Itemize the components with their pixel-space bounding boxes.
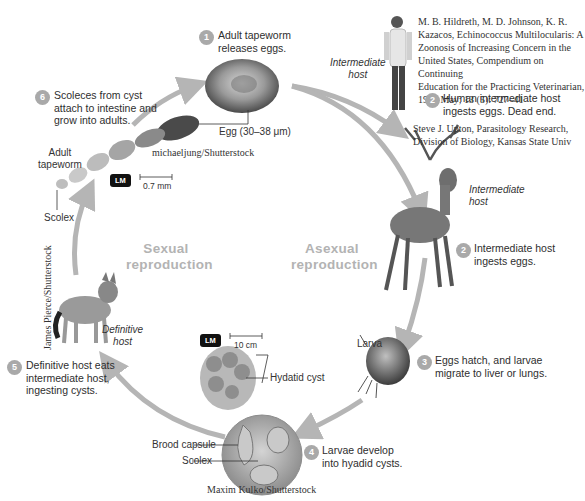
step-3-text: Eggs hatch, and larvae migrate to liver …	[435, 354, 547, 379]
wolf-host-label: Definitive host	[102, 324, 143, 348]
scolex-label-bottom: Scolex	[182, 455, 212, 467]
scolex-label-top: Scolex	[44, 212, 74, 224]
step-badge-5: 5	[7, 360, 22, 375]
step-badge-4: 4	[304, 445, 319, 460]
step-badge-2-deer: 2	[456, 243, 471, 258]
asexual-reproduction-label: Asexual reproduction	[291, 241, 373, 273]
arrow-5-to-6	[75, 192, 89, 275]
lm-badge-top: LM	[110, 174, 131, 187]
egg-illustration	[198, 59, 279, 124]
step-badge-6: 6	[35, 90, 50, 105]
step-2-deer-text: Intermediate host ingests eggs.	[474, 242, 555, 267]
deer-host-label: Intermediate host	[469, 184, 525, 208]
brood-capsule-label: Brood capsule	[152, 439, 216, 451]
scale-value-top: 0.7 mm	[143, 181, 171, 191]
step-4-text: Larvae develop into hyadid cysts.	[322, 444, 403, 469]
arrow-3-to-4	[304, 400, 362, 432]
step-badge-1: 1	[199, 30, 214, 45]
step-6-text: Scoleces from cyst attach to intestine a…	[54, 89, 157, 127]
scale-bar-bottom	[230, 333, 262, 339]
scale-bar-top	[140, 174, 172, 180]
step-2-human-text: Human intermediate host ingests eggs. De…	[443, 92, 560, 117]
step-1-text: Adult tapeworm releases eggs.	[218, 29, 291, 54]
adult-tapeworm-label: Adult tapeworm	[38, 147, 82, 171]
hydatid-cyst-label: Hydatid cyst	[270, 372, 324, 384]
step-badge-3: 3	[417, 355, 432, 370]
credit-cyst: Maxim Kulko/Shutterstock	[207, 483, 316, 496]
scale-value-bottom: 10 cm	[234, 340, 257, 350]
egg-label: Egg (30–38 μm)	[219, 126, 291, 138]
lm-badge-bottom: LM	[200, 334, 221, 347]
credit-wolf: James Pierce/Shutterstock	[41, 245, 54, 350]
human-illustration	[384, 16, 412, 110]
sexual-reproduction-label: Sexual reproduction	[126, 241, 206, 273]
credit-tapeworm: michaeljung/Shutterstock	[152, 146, 254, 159]
human-host-label: Intermediate host	[330, 57, 386, 81]
step-badge-2-human: 2	[425, 93, 440, 108]
credit-upton: Steve J. Upton, Parasitology Research, D…	[413, 122, 571, 148]
step-5-text: Definitive host eats intermediate host, …	[26, 359, 115, 397]
larva-label: Larva	[357, 338, 382, 350]
